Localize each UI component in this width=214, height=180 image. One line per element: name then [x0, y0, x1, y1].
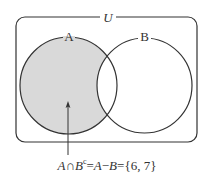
formula-set-b: B — [75, 158, 83, 173]
formula-intersection: ∩ — [66, 158, 75, 173]
formula-set-a: A — [58, 158, 66, 173]
venn-diagram: U A B — [0, 0, 214, 180]
set-a-label: A — [64, 29, 74, 44]
formula-equals-1: = — [86, 158, 93, 173]
universe-label: U — [103, 10, 114, 25]
formula-set-a-2: A — [94, 158, 102, 173]
formula-result: {6, 7} — [124, 158, 156, 173]
formula-set-b-2: B — [109, 158, 117, 173]
formula-minus: − — [102, 158, 109, 173]
set-b-label: B — [140, 29, 149, 44]
formula-annotation: A∩Bc=A−B={6, 7} — [0, 158, 214, 174]
